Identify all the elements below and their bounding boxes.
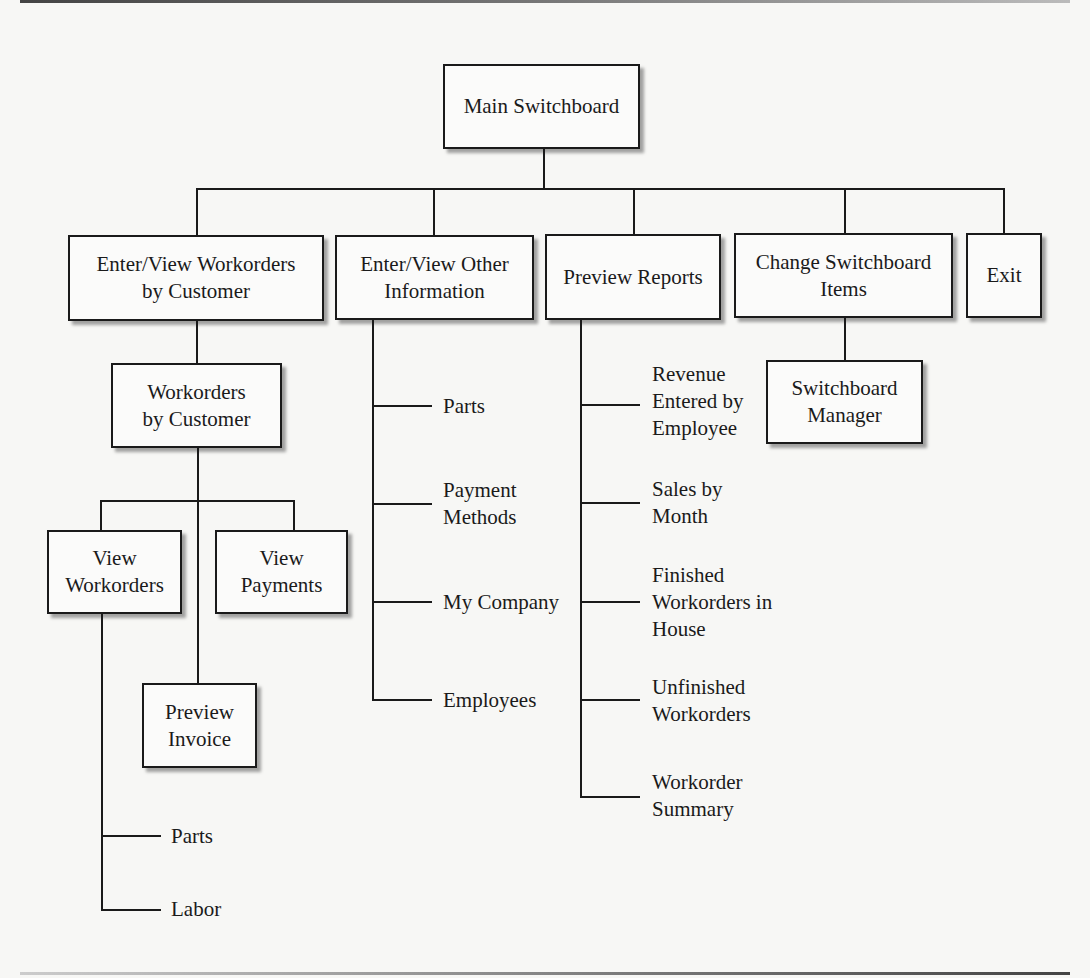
connector xyxy=(372,699,432,701)
preview-invoice-box[interactable]: Preview Invoice xyxy=(142,683,257,768)
connector xyxy=(580,502,640,504)
connector xyxy=(633,188,635,235)
connector xyxy=(101,835,161,837)
change-switchboard-items-box[interactable]: Change Switchboard Items xyxy=(734,233,953,318)
connector xyxy=(101,909,161,911)
view-workorders-labor-item[interactable]: Labor xyxy=(171,896,221,923)
exit-box[interactable]: Exit xyxy=(966,233,1042,318)
connector xyxy=(543,149,545,190)
top-rule xyxy=(20,0,1070,3)
connector xyxy=(580,699,640,701)
revenue-by-employee-report[interactable]: Revenue Entered by Employee xyxy=(652,361,744,442)
finished-workorders-report[interactable]: Finished Workorders in House xyxy=(652,562,772,643)
connector xyxy=(844,318,846,360)
connector xyxy=(372,405,432,407)
sales-by-month-report[interactable]: Sales by Month xyxy=(652,476,723,530)
connector xyxy=(196,321,198,363)
connector xyxy=(293,500,295,530)
connector xyxy=(372,503,432,505)
unfinished-workorders-report[interactable]: Unfinished Workorders xyxy=(652,674,751,728)
connector xyxy=(580,320,582,798)
connector xyxy=(372,320,374,701)
connector xyxy=(580,404,640,406)
connector xyxy=(844,188,846,235)
other-info-parts-item[interactable]: Parts xyxy=(443,393,485,420)
payment-methods-item[interactable]: Payment Methods xyxy=(443,477,517,531)
workorders-by-customer-box[interactable]: Workorders by Customer xyxy=(111,363,282,448)
workorder-summary-report[interactable]: Workorder Summary xyxy=(652,769,742,823)
view-workorders-box[interactable]: View Workorders xyxy=(47,530,182,614)
connector xyxy=(196,188,198,235)
enter-view-other-info-box[interactable]: Enter/View Other Information xyxy=(335,235,534,320)
enter-view-workorders-box[interactable]: Enter/View Workorders by Customer xyxy=(68,235,324,321)
connector xyxy=(1003,188,1005,235)
connector xyxy=(580,796,640,798)
view-payments-box[interactable]: View Payments xyxy=(215,530,348,614)
my-company-item[interactable]: My Company xyxy=(443,589,559,616)
connector xyxy=(197,448,199,683)
connector xyxy=(100,500,295,502)
connector xyxy=(580,601,640,603)
employees-item[interactable]: Employees xyxy=(443,687,536,714)
preview-reports-box[interactable]: Preview Reports xyxy=(545,234,721,320)
connector xyxy=(372,601,432,603)
bottom-rule xyxy=(20,972,1070,975)
connector xyxy=(100,500,102,530)
main-switchboard-box[interactable]: Main Switchboard xyxy=(443,64,640,149)
view-workorders-parts-item[interactable]: Parts xyxy=(171,823,213,850)
connector xyxy=(196,188,1004,190)
switchboard-manager-box[interactable]: Switchboard Manager xyxy=(766,360,923,444)
connector xyxy=(101,614,103,910)
connector xyxy=(433,188,435,235)
